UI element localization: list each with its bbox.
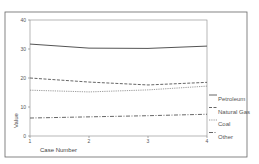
line-chart: 010203040 1234 Case Number Value Petrole… [0, 0, 259, 164]
x-axis-label: Case Number [40, 147, 77, 153]
x-tick-label: 4 [206, 138, 209, 144]
y-tick-label: 0 [23, 133, 26, 139]
legend-label: Other [218, 134, 233, 140]
y-axis-label: Value [13, 112, 19, 128]
x-tick-label: 1 [29, 138, 32, 144]
x-tick-label: 2 [88, 138, 91, 144]
legend-label: Natural Gas [218, 109, 250, 115]
y-tick-label: 10 [20, 104, 26, 110]
y-tick-label: 20 [20, 75, 26, 81]
y-tick-label: 30 [20, 46, 26, 52]
legend-label: Petroleum [218, 96, 245, 102]
x-tick-label: 3 [147, 138, 150, 144]
y-tick-label: 40 [20, 17, 26, 23]
legend-label: Coal [218, 121, 230, 127]
plot-area [30, 20, 207, 136]
